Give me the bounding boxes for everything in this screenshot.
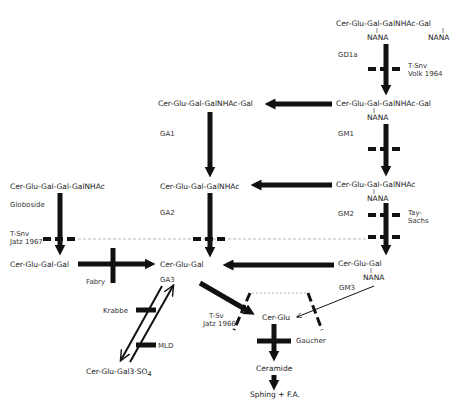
compound-cerglu: Cer-Glu (262, 313, 290, 322)
label-ga3: GA3 (160, 276, 175, 284)
compound-gm3-nana: NANA (363, 273, 385, 282)
arrow-ga3-to-sulfatide (121, 286, 162, 360)
disease-fabry: Fabry (86, 278, 105, 286)
compound-sphing: Sphing + F.A. (250, 390, 300, 399)
compound-gd1a-nana2: NANA (428, 33, 450, 42)
compound-gm1-nana: NANA (367, 113, 389, 122)
compound-sulfatide: Cer-Glu-Gal3·SO4 (86, 367, 152, 378)
compound-gm2: Cer-Glu-Gal-GalNHAc (336, 180, 415, 189)
label-gm2: GM2 (338, 210, 354, 218)
disease-krabbe: Krabbe (103, 307, 128, 315)
label-gd1a: GD1a (338, 51, 358, 59)
arrow-gm3-to-cerglu (297, 286, 374, 317)
compound-ga2: Cer-Glu-Gal-GalNHAc (160, 182, 239, 191)
disease-tsv-jatz: T-SvJatz 1966 (202, 312, 236, 328)
label-ga2: GA2 (160, 209, 175, 217)
label-ga1: GA1 (160, 130, 175, 138)
label-gm3: GM3 (339, 284, 355, 292)
disease-mld: MLD (158, 342, 173, 350)
compound-ga1: Cer-Glu-Gal-GalNHAc-Gal (158, 99, 253, 108)
label-globoside: Globoside (10, 201, 45, 209)
compound-trihexoside: Cer-Glu-Gal-Gal (10, 260, 69, 269)
compound-ceramide: Ceramide (256, 364, 293, 373)
disease-tsnv-volk: T-SnvVolk 1964 (407, 62, 443, 78)
compound-gm1: Cer-Glu-Gal-GalNHAc-Gal (336, 99, 431, 108)
label-gm1: GM1 (338, 130, 354, 138)
compound-gd1a: Cer-Glu-Gal-GalNHAc-Gal (336, 19, 431, 28)
compound-ga3: Cer-Glu-Gal (160, 260, 204, 269)
compound-globoside: Cer-Glu-Gal-Gal-GalNHAc (10, 182, 105, 191)
compound-gm3: Cer-Glu-Gal (338, 259, 382, 268)
sphingolipid-pathway-diagram: Cer-Glu-Gal-GalNHAc-Gal NANA NANA GD1a C… (0, 0, 462, 410)
disease-tsnv-jatz: T-SnvJatz 1967 (9, 230, 43, 246)
compound-gm2-nana: NANA (367, 194, 389, 203)
compound-gd1a-nana1: NANA (367, 33, 389, 42)
arrow-sulfatide-to-ga3 (130, 286, 173, 362)
disease-gaucher: Gaucher (296, 337, 326, 345)
disease-tay-sachs: Tay-Sachs (407, 209, 429, 225)
